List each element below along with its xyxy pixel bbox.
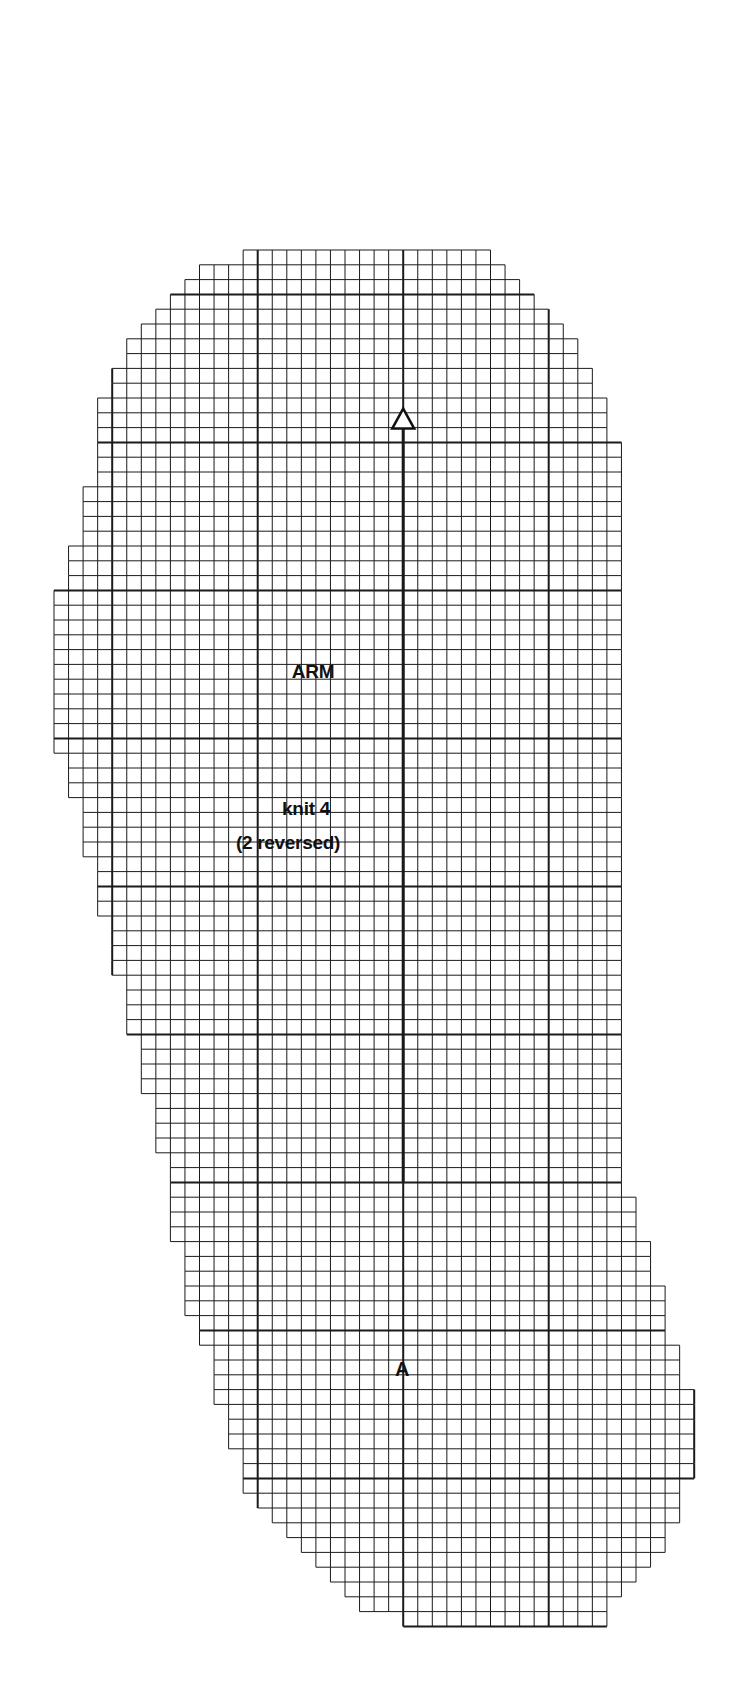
point-a-marker: A (395, 1358, 409, 1381)
knit-count-label: knit 4 (282, 798, 330, 820)
piece-name-label: ARM (292, 661, 334, 683)
triangle-outline-icon (392, 409, 414, 429)
reversed-count-label: (2 reversed) (236, 832, 340, 854)
knitting-chart-grid (0, 0, 756, 1704)
